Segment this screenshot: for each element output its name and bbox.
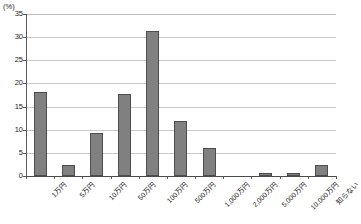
y-tick-mark — [23, 37, 26, 38]
x-tick-label: 5,000万円 — [280, 181, 308, 209]
x-tick-mark — [195, 176, 196, 179]
x-tick-mark — [336, 176, 337, 179]
x-tick-label: 500万円 — [194, 181, 218, 205]
x-tick-label: 10,000万円 — [309, 181, 340, 212]
x-tick-mark — [82, 176, 83, 179]
x-tick-mark — [111, 176, 112, 179]
x-tick-label: 5万円 — [79, 181, 97, 199]
y-tick-mark — [23, 83, 26, 84]
x-tick-mark — [308, 176, 309, 179]
x-tick-label: 1万円 — [50, 181, 68, 199]
y-tick-mark — [23, 60, 26, 61]
x-tick-mark — [167, 176, 168, 179]
y-tick-mark — [23, 14, 26, 15]
x-tick-mark — [223, 176, 224, 179]
x-tick-label: 100万円 — [165, 181, 189, 205]
x-tick-mark — [54, 176, 55, 179]
y-tick-mark — [23, 153, 26, 154]
x-tick-mark — [26, 176, 27, 179]
x-tick-label: 1,000万円 — [223, 181, 251, 209]
x-tick-mark — [139, 176, 140, 179]
x-tick-mark — [251, 176, 252, 179]
y-tick-mark — [23, 130, 26, 131]
y-tick-mark — [23, 107, 26, 108]
x-tick-mark — [280, 176, 281, 179]
x-tick-label: 2,000万円 — [252, 181, 280, 209]
x-tick-label: 10万円 — [108, 181, 129, 202]
x-tick-label: 50万円 — [136, 181, 157, 202]
